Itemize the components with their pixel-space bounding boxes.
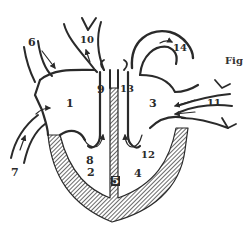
vessel-6 [24, 47, 35, 82]
label-3: 3 [149, 98, 157, 109]
flow-arrow [160, 41, 172, 43]
figure-caption: Fig [225, 56, 243, 66]
label-2: 2 [87, 167, 95, 178]
label-4: 4 [134, 168, 142, 179]
label-13: 13 [120, 84, 134, 94]
label-12: 12 [141, 150, 155, 160]
label-9: 9 [97, 84, 105, 95]
flow-arrow [175, 100, 195, 106]
label-10: 10 [80, 35, 94, 45]
vessel-10 [64, 24, 95, 70]
label-1: 1 [66, 98, 74, 109]
label-6: 6 [28, 37, 36, 48]
left-atrium-wall [140, 75, 198, 92]
label-5: 5 [111, 176, 120, 186]
flow-arrow [20, 136, 25, 150]
flow-arrow [175, 112, 195, 114]
heart-diagram [0, 0, 243, 237]
label-14: 14 [173, 43, 187, 53]
label-7: 7 [11, 167, 19, 178]
label-8: 8 [86, 155, 94, 166]
label-11: 11 [207, 98, 221, 108]
vessel-11 [180, 94, 230, 105]
